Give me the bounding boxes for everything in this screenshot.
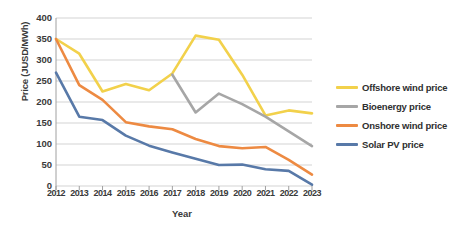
- legend-color-swatch: [336, 105, 358, 109]
- legend-item[interactable]: Offshore wind price: [336, 78, 460, 97]
- series-line: [56, 36, 312, 116]
- legend-color-swatch: [336, 86, 358, 90]
- legend-item[interactable]: Solar PV price: [336, 135, 460, 154]
- legend-color-swatch: [336, 143, 358, 147]
- x-axis-title: Year: [46, 208, 318, 219]
- legend-color-swatch: [336, 124, 358, 128]
- x-axis-tick-label: 2023: [297, 189, 327, 198]
- legend-item[interactable]: Onshore wind price: [336, 116, 460, 135]
- legend-item-label: Bioenergy price: [362, 101, 431, 112]
- legend-item-label: Offshore wind price: [362, 82, 447, 93]
- chart-legend: Offshore wind priceBioenergy priceOnshor…: [336, 78, 460, 154]
- legend-item-label: Onshore wind price: [362, 120, 447, 131]
- line-chart: Price (JUSD/MWh) 40035030025020015010050…: [0, 0, 461, 234]
- x-axis-tick-labels: 2012201320142015201620172018201920202021…: [56, 189, 312, 205]
- series-line: [56, 73, 312, 185]
- legend-item[interactable]: Bioenergy price: [336, 97, 460, 116]
- legend-item-label: Solar PV price: [362, 139, 424, 150]
